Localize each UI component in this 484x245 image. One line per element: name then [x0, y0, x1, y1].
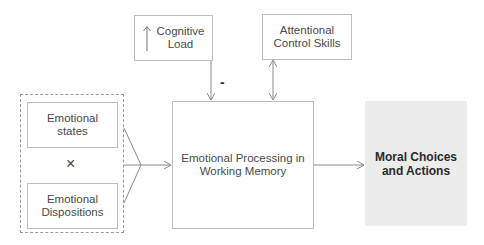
emotional-processing-label-line2: Working Memory — [181, 165, 304, 178]
emotional-dispositions-label-line2: Dispositions — [42, 206, 104, 219]
emotional-states-label-line2: states — [47, 125, 98, 138]
emotional-processing-label-line1: Emotional Processing in — [181, 152, 304, 165]
emotional-dispositions-box: Emotional Dispositions — [27, 183, 118, 229]
emotional-processing-box: Emotional Processing in Working Memory — [172, 101, 314, 229]
interaction-symbol: × — [66, 155, 75, 173]
moral-choices-label-line2: and Actions — [375, 164, 457, 178]
negative-effect-label: - — [220, 74, 225, 90]
emotional-dispositions-label-line1: Emotional — [42, 193, 104, 206]
attentional-control-label-line1: Attentional — [273, 24, 340, 37]
cognitive-load-label-line1: Cognitive — [157, 25, 205, 38]
emotional-states-label-line1: Emotional — [47, 112, 98, 125]
attentional-control-box: Attentional Control Skills — [262, 14, 352, 60]
up-arrow-icon — [143, 25, 151, 51]
moral-choices-label-line1: Moral Choices — [375, 150, 457, 164]
cognitive-load-box: Cognitive Load — [134, 15, 213, 61]
attentional-control-label-line2: Control Skills — [273, 37, 340, 50]
cognitive-load-label-line2: Load — [157, 38, 205, 51]
moral-choices-box: Moral Choices and Actions — [365, 101, 467, 226]
emotional-states-box: Emotional states — [27, 102, 118, 148]
